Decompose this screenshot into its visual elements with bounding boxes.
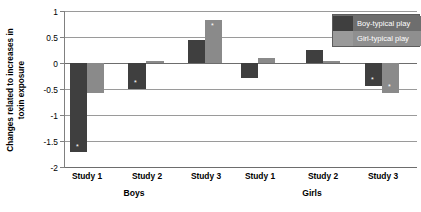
x-axis-labels: Study 1 Study 2 Study 3 Study 1 Study 2 … [64, 171, 416, 185]
y-tick-label: 0.5 [30, 33, 58, 43]
bar-boy-typical-girls-study-3: * [365, 63, 382, 86]
x-label-girls-study-3: Study 3 [355, 171, 411, 181]
y-tick-label: -1 [30, 111, 58, 121]
bar-boy-typical-girls-study-2 [306, 50, 323, 63]
x-label-boys-study-1: Study 1 [59, 171, 115, 181]
y-tick-label: 0 [30, 59, 58, 69]
bar-girl-typical-girls-study-3: * [382, 63, 399, 93]
x-label-boys-study-3: Study 3 [178, 171, 234, 181]
legend-swatch-icon [333, 16, 353, 31]
y-tick-label: -0.5 [30, 85, 58, 95]
bar-girl-typical-girls-study-1 [258, 58, 275, 63]
y-tick-label: -2 [30, 163, 58, 173]
significance-star: * [388, 83, 391, 90]
legend-item-boy-typical-play: Boy-typical play [333, 16, 421, 31]
group-label-girls: Girls [267, 188, 357, 198]
x-label-boys-study-2: Study 2 [119, 171, 175, 181]
bar-girl-typical-boys-study-2 [146, 61, 164, 63]
y-axis-title: Changes related to increases in toxin ex… [6, 4, 27, 176]
legend-swatch-icon [333, 31, 353, 46]
bar-boy-typical-boys-study-1: * [70, 63, 87, 152]
bar-girl-typical-boys-study-1 [87, 63, 104, 93]
legend-item-girl-typical-play: Girl-typical play [333, 31, 421, 46]
x-axis-group-labels: Boys Girls [64, 188, 416, 202]
y-tick-label: -1.5 [30, 137, 58, 147]
y-tick-label: 1 [30, 7, 58, 17]
bar-boy-typical-boys-study-3 [188, 40, 205, 63]
group-label-boys: Boys [89, 188, 179, 198]
legend: Boy-typical play Girl-typical play [332, 14, 420, 47]
legend-label: Boy-typical play [353, 19, 410, 28]
bar-boy-typical-girls-study-1 [241, 63, 258, 78]
bar-boy-typical-boys-study-2: * [128, 63, 146, 89]
bar-girl-typical-boys-study-3: * [205, 20, 222, 63]
significance-star: * [76, 143, 79, 150]
bar-girl-typical-girls-study-2 [323, 61, 340, 63]
x-label-girls-study-2: Study 2 [295, 171, 351, 181]
x-label-girls-study-1: Study 1 [232, 171, 288, 181]
legend-label: Girl-typical play [353, 34, 409, 43]
significance-star: * [211, 22, 214, 29]
significance-star: * [134, 79, 137, 86]
significance-star: * [371, 76, 374, 83]
y-axis-title-area: Changes related to increases in toxin ex… [0, 0, 34, 180]
